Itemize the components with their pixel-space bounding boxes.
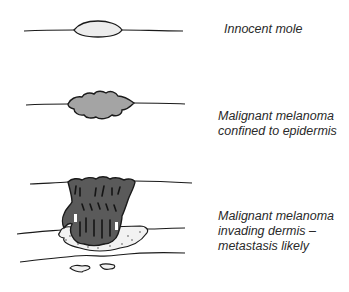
label-line: confined to epidermis bbox=[218, 124, 337, 139]
subcutaneous-boundary-line bbox=[20, 253, 185, 262]
metastatic-fragment bbox=[70, 265, 90, 272]
label-line: Malignant melanoma bbox=[218, 109, 337, 124]
innocent-mole-illustration bbox=[24, 21, 183, 37]
melanoma-progression-diagram: Innocent mole Malignant melanoma confine… bbox=[0, 0, 349, 292]
skin-surface-line bbox=[122, 30, 183, 31]
epidermal-melanoma-label: Malignant melanoma confined to epidermis bbox=[218, 109, 337, 139]
epidermal-melanoma-illustration bbox=[26, 91, 185, 118]
label-line: invading dermis – bbox=[218, 224, 334, 239]
label-line: Malignant melanoma bbox=[218, 209, 334, 224]
dermis-boundary-line bbox=[146, 228, 185, 229]
skin-surface-line bbox=[30, 182, 68, 184]
tumor-highlight bbox=[115, 222, 118, 230]
label-line: Innocent mole bbox=[224, 22, 303, 37]
mole-shape bbox=[74, 21, 122, 37]
dermis-boundary-line bbox=[17, 230, 62, 234]
skin-surface-line bbox=[134, 181, 192, 183]
skin-surface-line bbox=[26, 104, 68, 105]
skin-surface-line bbox=[134, 103, 185, 104]
innocent-mole-label: Innocent mole bbox=[224, 22, 303, 37]
metastatic-fragment bbox=[100, 264, 115, 270]
tumor-highlight bbox=[74, 214, 77, 222]
melanoma-shape bbox=[68, 91, 134, 118]
skin-surface-line bbox=[24, 30, 74, 31]
invasive-melanoma-label: Malignant melanoma invading dermis – met… bbox=[218, 209, 334, 254]
invasive-melanoma-illustration bbox=[17, 177, 192, 272]
label-line: metastasis likely bbox=[218, 239, 334, 254]
